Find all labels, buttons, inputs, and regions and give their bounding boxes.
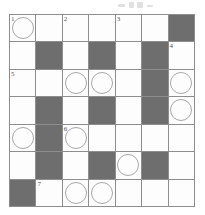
crossword-cell[interactable] [116, 180, 142, 207]
clue-number: 5 [11, 70, 15, 78]
crossword-cell[interactable] [36, 15, 62, 42]
crossword-cell[interactable] [10, 125, 36, 152]
scan-artifact-blot [129, 2, 134, 8]
circle-icon [65, 182, 87, 204]
crossword-blocked-cell [142, 42, 168, 69]
crossword-cell[interactable] [142, 180, 168, 207]
crossword-blocked-cell [10, 180, 36, 207]
clue-number: 4 [170, 42, 174, 50]
crossword-blocked-cell [36, 125, 62, 152]
crossword-blocked-cell [36, 42, 62, 69]
crossword-cell[interactable]: 6 [63, 125, 89, 152]
crossword-cell[interactable] [10, 42, 36, 69]
circle-icon [170, 99, 192, 121]
crossword-cell[interactable]: 7 [36, 180, 62, 207]
circle-icon [117, 154, 139, 176]
crossword-cell[interactable] [169, 70, 195, 97]
scan-artifact-blot [137, 2, 143, 8]
crossword-blocked-cell [89, 97, 115, 124]
circle-icon [65, 127, 87, 149]
crossword-cell[interactable] [169, 125, 195, 152]
crossword-cell[interactable] [63, 70, 89, 97]
crossword-cell[interactable] [63, 42, 89, 69]
crossword-cell[interactable] [89, 180, 115, 207]
crossword-cell[interactable] [10, 97, 36, 124]
circle-icon [12, 17, 34, 39]
crossword-cell[interactable] [89, 125, 115, 152]
crossword-cell[interactable] [36, 70, 62, 97]
crossword-cell[interactable] [169, 97, 195, 124]
circle-icon [91, 182, 113, 204]
crossword-blocked-cell [142, 70, 168, 97]
crossword-blocked-cell [142, 97, 168, 124]
crossword-cell[interactable]: 1 [10, 15, 36, 42]
crossword-cell[interactable] [116, 125, 142, 152]
crossword-cell[interactable] [169, 180, 195, 207]
scan-artifact-blot [147, 5, 153, 7]
crossword-cell[interactable] [89, 15, 115, 42]
scan-artifact [118, 2, 154, 9]
circle-icon [91, 72, 113, 94]
crossword-cell[interactable]: 4 [169, 42, 195, 69]
circle-icon [170, 72, 192, 94]
crossword-cell[interactable] [63, 180, 89, 207]
clue-number: 1 [11, 15, 15, 23]
circle-icon [65, 72, 87, 94]
crossword-cell[interactable] [169, 152, 195, 179]
crossword-blocked-cell [142, 152, 168, 179]
crossword-cell[interactable]: 3 [116, 15, 142, 42]
crossword-grid: 1234567 [9, 14, 195, 207]
crossword-cell[interactable] [63, 152, 89, 179]
scan-artifact-blot [118, 4, 125, 7]
crossword-cell[interactable] [89, 70, 115, 97]
circle-icon [12, 127, 34, 149]
crossword-cell[interactable] [116, 97, 142, 124]
crossword-blocked-cell [169, 15, 195, 42]
clue-number: 6 [64, 125, 68, 133]
crossword-cell[interactable] [116, 152, 142, 179]
crossword-cell[interactable] [142, 125, 168, 152]
clue-number: 3 [117, 15, 121, 23]
crossword-blocked-cell [36, 97, 62, 124]
crossword-cell[interactable] [142, 15, 168, 42]
crossword-cell[interactable]: 2 [63, 15, 89, 42]
crossword-cell[interactable]: 5 [10, 70, 36, 97]
crossword-blocked-cell [36, 152, 62, 179]
crossword-blocked-cell [89, 42, 115, 69]
clue-number: 2 [64, 15, 68, 23]
crossword-cell[interactable] [116, 42, 142, 69]
clue-number: 7 [37, 180, 41, 188]
crossword-cell[interactable] [63, 97, 89, 124]
crossword-cell[interactable] [10, 152, 36, 179]
crossword-cell[interactable] [116, 70, 142, 97]
crossword-blocked-cell [89, 152, 115, 179]
